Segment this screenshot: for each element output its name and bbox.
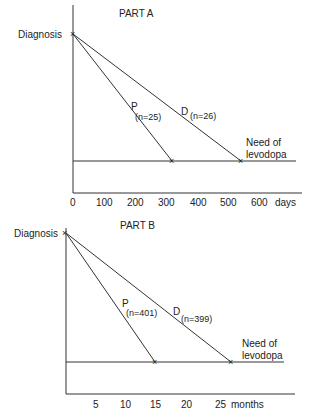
part-a-need-label: Need of bbox=[246, 137, 281, 148]
part-b-need-label: Need of bbox=[242, 338, 277, 349]
part-a-tick: 500 bbox=[220, 197, 237, 208]
part-a-title: PART A bbox=[119, 8, 154, 19]
part-a-d-end-marker: × bbox=[238, 156, 243, 166]
part-a-start-marker: × bbox=[70, 29, 75, 39]
part-b-tick: 20 bbox=[181, 399, 193, 410]
part-b-series-d-label: D bbox=[173, 306, 180, 317]
part-b-series-d-line bbox=[66, 233, 231, 362]
part-b-tick: 5 bbox=[93, 399, 99, 410]
chart-part-a: PART A Diagnosis Need of levodopa × × × … bbox=[18, 5, 302, 208]
part-a-tick: 0 bbox=[70, 197, 76, 208]
part-a-series-d-label: D bbox=[181, 106, 188, 117]
part-a-series-p-n: (n=25) bbox=[135, 112, 161, 122]
part-b-series-p-line bbox=[66, 233, 155, 362]
part-b-x-label: months bbox=[231, 399, 264, 410]
part-a-tick: 400 bbox=[190, 197, 207, 208]
figure: PART A Diagnosis Need of levodopa × × × … bbox=[0, 0, 316, 419]
part-b-series-d-n: (n=399) bbox=[181, 314, 212, 324]
part-a-tick: 200 bbox=[127, 197, 144, 208]
part-b-tick: 25 bbox=[215, 399, 227, 410]
part-b-tick: 10 bbox=[120, 399, 132, 410]
part-b-diagnosis-label: Diagnosis bbox=[14, 228, 58, 239]
part-a-levodopa-label: levodopa bbox=[246, 149, 287, 160]
part-a-p-end-marker: × bbox=[169, 156, 174, 166]
part-a-x-label: days bbox=[275, 197, 296, 208]
part-a-tick: 100 bbox=[96, 197, 113, 208]
part-b-title: PART B bbox=[120, 220, 155, 231]
part-b-levodopa-label: levodopa bbox=[242, 350, 283, 361]
part-a-tick: 600 bbox=[251, 197, 268, 208]
part-b-start-marker: × bbox=[62, 228, 67, 238]
part-b-p-end-marker: × bbox=[152, 357, 157, 367]
part-b-d-end-marker: × bbox=[228, 357, 233, 367]
part-a-series-d-n: (n=26) bbox=[190, 111, 216, 121]
part-a-series-p-label: P bbox=[131, 101, 138, 112]
part-b-series-p-n: (n=401) bbox=[126, 308, 157, 318]
part-b-tick: 15 bbox=[150, 399, 162, 410]
part-a-diagnosis-label: Diagnosis bbox=[18, 29, 62, 40]
chart-part-b: PART B Diagnosis Need of levodopa × × × … bbox=[14, 220, 295, 410]
part-a-tick: 300 bbox=[158, 197, 175, 208]
